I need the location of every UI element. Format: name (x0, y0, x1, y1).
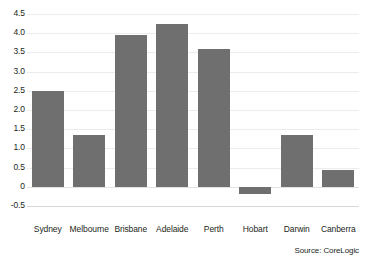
y-axis-tick-label: 0 (1, 182, 25, 191)
x-axis-tick-label: Sydney (27, 224, 69, 235)
bar-melbourne (73, 135, 105, 187)
gridline (27, 206, 359, 207)
bar-brisbane (115, 35, 147, 187)
bar-canberra (322, 170, 354, 187)
x-axis-tick-label: Hobart (235, 224, 277, 235)
y-axis-tick-label: -0.5 (1, 201, 25, 210)
x-axis-tick-label: Darwin (276, 224, 318, 235)
bar-sydney (32, 91, 64, 187)
plot-area (27, 14, 359, 206)
y-axis-tick-label: 2.5 (1, 86, 25, 95)
bar-chart: 4.54.03.53.02.52.01.51.00.50-0.5 SydneyM… (0, 0, 367, 261)
x-axis-tick-label: Melbourne (69, 224, 111, 235)
x-axis-tick-label: Brisbane (110, 224, 152, 235)
bar-perth (198, 49, 230, 187)
y-axis-tick-label: 4.0 (1, 28, 25, 37)
y-axis-tick-label: 1.0 (1, 143, 25, 152)
bars-group (27, 14, 359, 206)
y-axis-tick-label: 4.5 (1, 9, 25, 18)
x-axis: SydneyMelbourneBrisbaneAdelaidePerthHoba… (27, 224, 359, 238)
x-axis-tick-label: Perth (193, 224, 235, 235)
bar-adelaide (156, 24, 188, 187)
bar-darwin (281, 135, 313, 187)
y-axis-tick-label: 0.5 (1, 163, 25, 172)
x-axis-tick-label: Adelaide (152, 224, 194, 235)
x-axis-tick-label: Canberra (318, 224, 360, 235)
y-axis-tick-label: 2.0 (1, 105, 25, 114)
y-axis-tick-label: 1.5 (1, 124, 25, 133)
y-axis: 4.54.03.53.02.52.01.51.00.50-0.5 (0, 0, 25, 261)
bar-hobart (239, 187, 271, 195)
source-note: Source: CoreLogic (294, 246, 359, 256)
y-axis-tick-label: 3.0 (1, 67, 25, 76)
y-axis-tick-label: 3.5 (1, 47, 25, 56)
